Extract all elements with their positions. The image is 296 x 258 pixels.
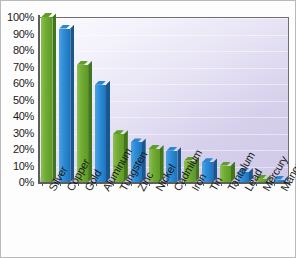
y-axis-tick-label: 60%	[13, 77, 34, 89]
bar-side	[106, 81, 110, 182]
bar-side	[70, 25, 74, 182]
y-axis-tick-label: 80%	[13, 44, 34, 56]
bar-column[interactable]	[41, 17, 54, 182]
bar-face	[59, 29, 70, 182]
bar-face	[41, 17, 52, 182]
y-axis-tick-label: 10%	[13, 160, 34, 172]
bar-column[interactable]	[59, 29, 72, 182]
bar-face	[95, 85, 106, 182]
y-axis-tick-label: 90%	[13, 28, 34, 40]
bar-silver[interactable]	[41, 17, 52, 182]
x-axis-tick	[203, 182, 204, 186]
y-axis-tick-label: 20%	[13, 143, 34, 155]
x-axis-tick	[185, 182, 186, 186]
x-axis-tick	[131, 182, 132, 186]
x-axis-tick	[78, 182, 79, 186]
bar-column[interactable]	[95, 85, 108, 182]
x-axis-tick	[60, 182, 61, 186]
x-axis-tick	[96, 182, 97, 186]
x-axis-tick	[113, 182, 114, 186]
x-axis-tick	[149, 182, 150, 186]
x-axis-tick	[221, 182, 222, 186]
bar-side	[52, 13, 56, 182]
x-axis-tick	[274, 182, 275, 186]
x-axis-tick	[42, 182, 43, 186]
y-axis-tick-label: 0%	[19, 176, 34, 188]
bar-copper[interactable]	[59, 29, 70, 182]
bar-aluminum[interactable]	[95, 85, 106, 182]
x-axis-labels: SilverCopperGoldAluminumTungstenZincNick…	[39, 187, 289, 258]
x-axis-tick	[238, 182, 239, 186]
y-axis-labels: 100%90%80%70%60%50%40%30%20%10%0%	[1, 1, 37, 258]
chart-figure: 100%90%80%70%60%50%40%30%20%10%0% Silver…	[0, 0, 296, 258]
y-axis-tick-label: 70%	[13, 61, 34, 73]
y-axis-tick-label: 30%	[13, 127, 34, 139]
y-axis-tick-label: 100%	[7, 11, 34, 23]
x-axis-tick	[256, 182, 257, 186]
y-axis-tick-label: 50%	[13, 94, 34, 106]
y-axis-tick-label: 40%	[13, 110, 34, 122]
x-axis-tick	[167, 182, 168, 186]
